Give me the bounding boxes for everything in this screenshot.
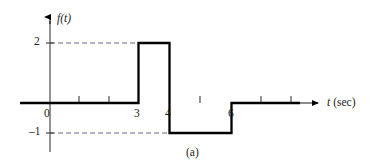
x-axis-label-unit: (sec) (333, 96, 355, 108)
x-tick-label-0: 0 (44, 108, 50, 120)
plot-canvas (0, 0, 377, 166)
x-tick-label-3: 3 (134, 108, 140, 120)
y-tick-label-2: 2 (34, 36, 40, 48)
y-axis-label: f(t) (57, 13, 71, 25)
x-tick-label-6: 6 (228, 108, 234, 120)
x-axis-label-symbol: t (327, 96, 330, 108)
y-axis-label-text: f(t) (57, 12, 71, 24)
y-tick-label-neg1: –1 (29, 126, 41, 138)
figure-panel: f(t) 2 –1 0 3 4 6 t(sec) (a) (0, 0, 377, 166)
x-axis-label: t(sec) (327, 97, 356, 109)
signal-waveform (20, 43, 300, 133)
figure-caption: (a) (186, 147, 199, 159)
x-tick-label-4: 4 (165, 108, 171, 120)
